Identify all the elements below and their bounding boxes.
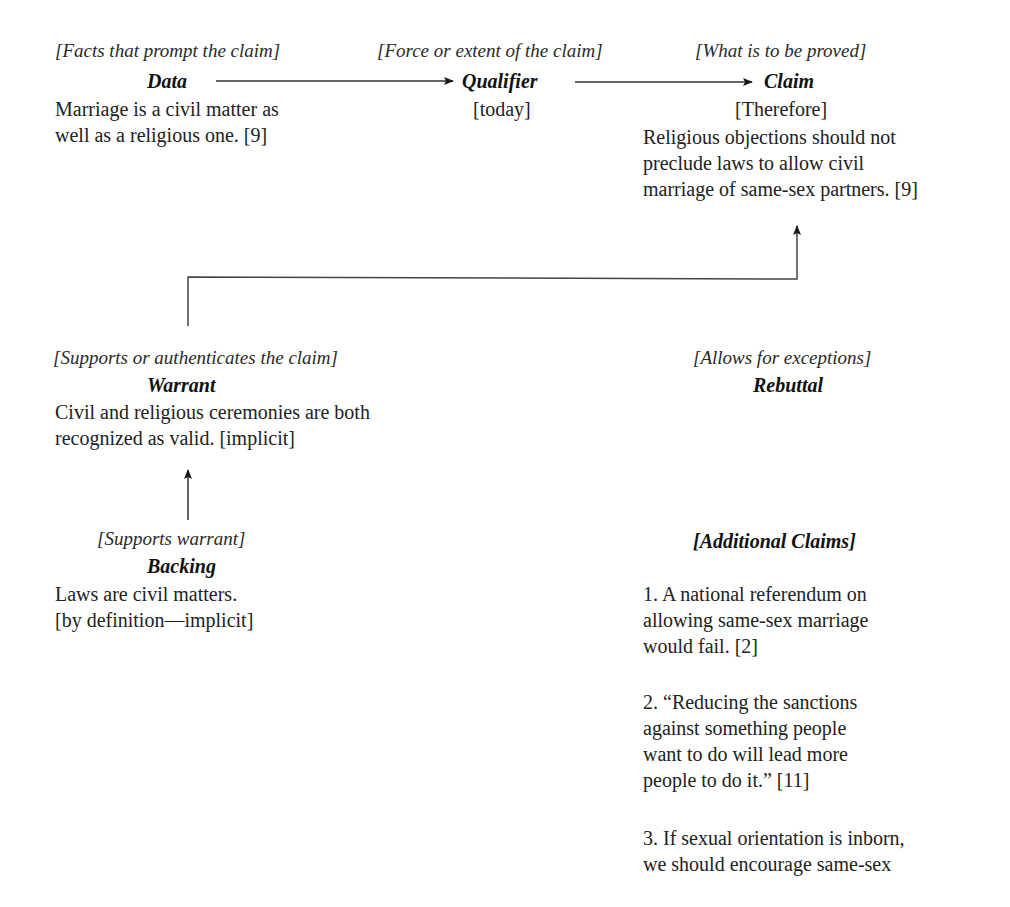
rebuttal-title: Rebuttal [753,374,823,397]
rebuttal-label: [Allows for exceptions] [693,347,871,369]
data-text: Marriage is a civil matter as well as a … [55,96,375,148]
warrant-label: [Supports or authenticates the claim] [53,347,338,369]
qualifier-text: [today] [473,96,531,122]
additional-claims-title: [Additional Claims] [693,530,856,553]
claim-title: Claim [764,70,814,93]
qualifier-label: [Force or extent of the claim] [377,40,603,62]
claim-label: [What is to be proved] [695,40,866,62]
backing-title: Backing [147,555,216,578]
data-label: [Facts that prompt the claim] [55,40,280,62]
additional-claim-item-3: 3. If sexual orientation is inborn, we s… [643,825,1003,877]
claim-text: Religious objections should not preclude… [643,124,1003,202]
warrant-text: Civil and religious ceremonies are both … [55,399,485,451]
additional-claim-item-2: 2. “Reducing the sanctions against somet… [643,689,1003,793]
additional-claim-item-1: 1. A national referendum on allowing sam… [643,581,1003,659]
claim-connector: [Therefore] [735,96,827,122]
data-title: Data [147,70,187,93]
backing-text: Laws are civil matters. [by definition—i… [55,581,375,633]
qualifier-title: Qualifier [462,70,538,93]
warrant-to-claim-arrow [188,226,797,326]
backing-label: [Supports warrant] [97,528,245,550]
warrant-title: Warrant [147,374,216,397]
